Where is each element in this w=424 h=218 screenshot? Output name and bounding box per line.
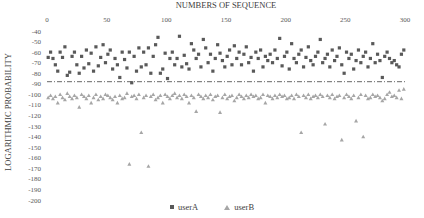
data-point-userA <box>269 53 272 56</box>
data-point-userA <box>326 53 329 56</box>
legend-item-userA: userA <box>170 200 198 214</box>
data-point-userB <box>68 94 72 98</box>
data-point-userB <box>325 93 329 97</box>
data-point-userB <box>273 93 277 97</box>
data-point-userB <box>237 92 241 96</box>
data-point-userB <box>359 92 363 96</box>
data-point-userA <box>128 51 131 54</box>
data-point-userB <box>399 97 403 101</box>
data-point-userA <box>307 45 310 48</box>
square-marker-icon <box>170 205 174 209</box>
data-point-userB <box>235 96 239 100</box>
data-point-userA <box>104 61 107 64</box>
data-point-userB <box>139 130 143 134</box>
data-point-userB <box>387 90 391 94</box>
data-point-userA <box>123 58 126 61</box>
data-point-userA <box>142 51 145 54</box>
data-point-userA <box>202 38 205 41</box>
x-axis-title: NUMBERS OF SEQUENCE <box>176 0 277 10</box>
data-point-userA <box>259 48 262 51</box>
data-point-userA <box>228 48 231 51</box>
data-point-userA <box>362 55 365 58</box>
data-point-userA <box>366 65 369 68</box>
data-point-userB <box>278 92 282 96</box>
data-point-userA <box>240 63 243 66</box>
data-point-userA <box>192 48 195 51</box>
data-point-userA <box>137 46 140 49</box>
triangle-marker-icon <box>224 205 230 210</box>
data-point-userA <box>180 65 183 68</box>
data-point-userB <box>144 93 148 97</box>
data-point-userB <box>77 105 81 109</box>
y-tick-label: -160 <box>28 154 41 162</box>
data-point-userB <box>230 93 234 97</box>
series-userA <box>47 35 406 85</box>
x-tick-label: 50 <box>103 16 111 24</box>
data-point-userA <box>218 52 221 55</box>
data-point-userB <box>115 101 119 105</box>
data-point-userB <box>290 93 294 97</box>
data-point-userB <box>340 138 344 142</box>
data-point-userA <box>266 59 269 62</box>
data-point-userA <box>273 48 276 51</box>
data-point-userA <box>376 53 379 56</box>
data-point-userB <box>173 91 177 95</box>
data-point-userA <box>51 57 54 60</box>
data-point-userA <box>378 59 381 62</box>
data-point-userA <box>85 48 88 51</box>
data-point-userA <box>171 51 174 54</box>
data-point-userA <box>386 51 389 54</box>
data-point-userA <box>347 57 350 60</box>
data-point-userA <box>223 65 226 68</box>
data-point-userB <box>151 92 155 96</box>
data-point-userB <box>127 162 131 166</box>
data-point-userA <box>173 63 176 66</box>
data-point-userA <box>207 61 210 64</box>
data-point-userB <box>92 96 96 100</box>
data-point-userB <box>118 93 122 97</box>
data-point-userA <box>164 52 167 55</box>
data-point-userB <box>323 122 327 126</box>
data-point-userA <box>195 57 198 60</box>
y-tick-label: -100 <box>28 91 41 99</box>
data-point-userA <box>304 56 307 59</box>
data-point-userA <box>338 46 341 49</box>
data-point-userB <box>220 96 224 100</box>
data-point-userB <box>392 93 396 97</box>
x-tick-label: 200 <box>280 16 291 24</box>
data-point-userA <box>68 71 71 74</box>
data-point-userB <box>194 109 198 113</box>
data-point-userB <box>182 92 186 96</box>
data-point-userB <box>197 92 201 96</box>
data-point-userA <box>87 62 90 65</box>
data-point-userA <box>290 42 293 45</box>
data-point-userA <box>254 51 257 54</box>
x-axis-ticks: 050100150200250300 <box>45 16 411 24</box>
data-point-userB <box>330 92 334 96</box>
data-point-userB <box>211 98 215 102</box>
data-point-userA <box>66 74 69 77</box>
data-point-userA <box>140 65 143 68</box>
data-point-userA <box>335 55 338 58</box>
data-point-userB <box>352 93 356 97</box>
data-point-userA <box>309 59 312 62</box>
data-point-userB <box>244 93 248 97</box>
data-point-userA <box>397 65 400 68</box>
data-point-userA <box>63 45 66 48</box>
data-point-userA <box>59 51 62 54</box>
data-point-userB <box>342 96 346 100</box>
legend-label-userB: userB <box>234 202 254 212</box>
y-tick-label: -170 <box>28 165 41 173</box>
data-point-userA <box>276 57 279 60</box>
x-tick-label: 250 <box>340 16 351 24</box>
data-point-userB <box>96 98 100 102</box>
data-point-userA <box>283 55 286 58</box>
y-tick-label: -140 <box>28 133 41 141</box>
data-point-userA <box>374 61 377 64</box>
data-point-userB <box>356 96 360 100</box>
data-point-userA <box>328 65 331 68</box>
data-point-userA <box>249 56 252 59</box>
data-point-userA <box>235 57 238 60</box>
data-point-userA <box>197 53 200 56</box>
data-point-userB <box>232 99 236 103</box>
